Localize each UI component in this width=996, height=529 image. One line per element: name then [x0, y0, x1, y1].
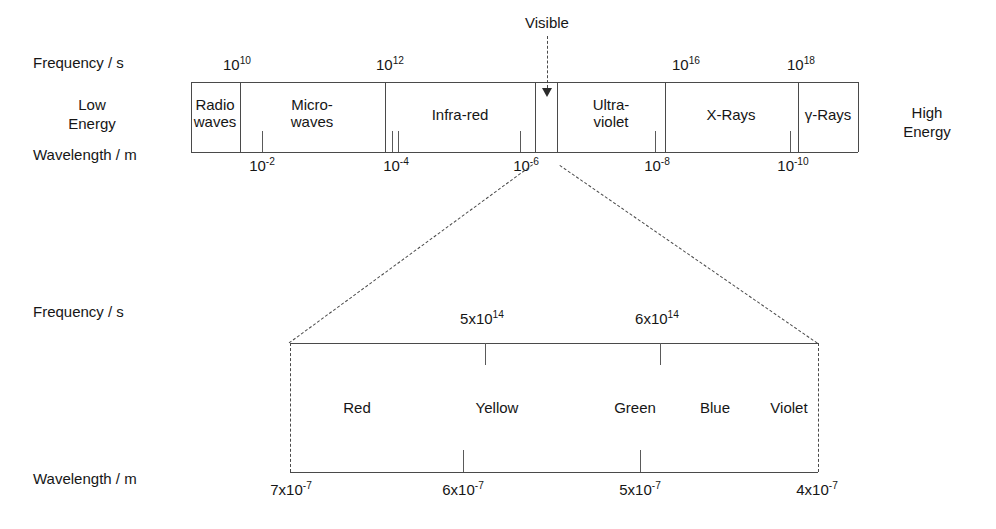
- visible-wavelength-tick-2-exp: -7: [652, 480, 661, 491]
- band-label-infra-red-line1: Infra-red: [432, 106, 489, 123]
- band-label-ultraviolet-line2: violet: [593, 113, 630, 130]
- band-label-gammarays: γ-Rays: [805, 106, 852, 123]
- visible-wavelength-tick-3: 4x10-7: [796, 481, 838, 498]
- top-frequency-tick-2-exp: 16: [689, 55, 700, 66]
- top-wavelength-tick-2: 10-6: [513, 157, 539, 174]
- divider-microwaves-infrared: [385, 82, 386, 152]
- top-wavelength-tick-3-base: 10: [644, 157, 661, 174]
- visible-panel-top-border: [290, 343, 818, 344]
- top-frequency-tick-3-base: 10: [787, 56, 804, 73]
- top-wavelength-tick-4-exp: -10: [794, 156, 809, 167]
- low-energy-label-line2: Energy: [68, 115, 116, 133]
- visible-callout-arrow-head-icon: [542, 88, 552, 97]
- visible-panel-bottom-border: [290, 472, 818, 473]
- divider-infrared-visible: [535, 82, 536, 152]
- wavelength-axis-label-bottom: Wavelength / m: [33, 470, 137, 487]
- top-wavelength-tick-0-exp: -2: [266, 156, 275, 167]
- top-frequency-tick-1-exp: 12: [393, 55, 404, 66]
- band-label-microwaves-line1: Micro-: [291, 96, 334, 113]
- top-wavelength-tickmark-2: [520, 131, 521, 152]
- band-label-ultraviolet: Ultra- violet: [593, 96, 630, 130]
- top-frequency-tick-2-base: 10: [672, 56, 689, 73]
- visible-wavelength-tick-0: 7x10-7: [270, 481, 312, 498]
- band-label-radio-waves-line2: waves: [194, 113, 237, 130]
- top-frequency-tick-3: 1018: [787, 56, 815, 73]
- colour-label-green: Green: [614, 399, 656, 416]
- high-energy-label-line2: Energy: [903, 123, 951, 141]
- visible-wavelength-tick-1-base: 6x10: [442, 481, 475, 498]
- visible-wavelength-tick-1: 6x10-7: [442, 481, 484, 498]
- visible-frequency-tick-1-base: 6x10: [635, 310, 668, 327]
- visible-wavelength-tick-2-base: 5x10: [619, 481, 652, 498]
- band-label-microwaves: Micro- waves: [291, 96, 334, 130]
- visible-panel-left-border: [290, 343, 291, 472]
- visible-callout-arrow-stem: [547, 36, 548, 88]
- top-wavelength-tick-3: 10-8: [644, 157, 670, 174]
- top-frequency-tick-2: 1016: [672, 56, 700, 73]
- visible-wavelength-tick-3-exp: -7: [829, 480, 838, 491]
- colour-label-violet: Violet: [770, 399, 807, 416]
- top-wavelength-tickmark-1a: [392, 131, 393, 152]
- top-wavelength-tick-1: 10-4: [383, 157, 409, 174]
- top-frequency-tick-0: 1010: [223, 56, 251, 73]
- band-label-radio-waves-line1: Radio: [194, 96, 237, 113]
- top-spectrum-bar-left-border: [191, 82, 192, 152]
- wavelength-axis-label-top: Wavelength / m: [33, 146, 137, 163]
- visible-wavelength-tickmark-1: [463, 450, 464, 472]
- colour-label-yellow: Yellow: [476, 399, 519, 416]
- band-label-ultraviolet-line1: Ultra-: [593, 96, 630, 113]
- divider-radio-microwaves: [240, 82, 241, 152]
- visible-frequency-tick-1-exp: 14: [668, 309, 679, 320]
- low-energy-label-line1: Low: [78, 96, 106, 114]
- visible-frequency-tick-0-exp: 14: [493, 309, 504, 320]
- visible-frequency-tickmark-0: [485, 343, 486, 365]
- top-wavelength-tick-4-base: 10: [777, 157, 794, 174]
- frequency-axis-label-bottom: Frequency / s: [33, 303, 124, 320]
- visible-panel-right-border: [818, 343, 819, 472]
- visible-wavelength-tick-0-base: 7x10: [270, 481, 303, 498]
- top-wavelength-tick-0: 10-2: [249, 157, 275, 174]
- visible-wavelength-tickmark-2: [640, 450, 641, 472]
- band-label-radio-waves: Radio waves: [194, 96, 237, 130]
- top-wavelength-tick-1-base: 10: [383, 157, 400, 174]
- visible-frequency-tick-0: 5x1014: [460, 310, 504, 327]
- top-frequency-tick-1: 1012: [376, 56, 404, 73]
- frequency-axis-label-top: Frequency / s: [33, 54, 124, 71]
- top-wavelength-tickmark-4: [790, 131, 791, 152]
- band-label-infra-red: Infra-red: [432, 106, 489, 123]
- expansion-line-right: [559, 165, 817, 344]
- top-frequency-tick-0-exp: 10: [240, 55, 251, 66]
- top-wavelength-tickmark-3: [655, 131, 656, 152]
- visible-wavelength-tick-3-base: 4x10: [796, 481, 829, 498]
- top-wavelength-tick-0-base: 10: [249, 157, 266, 174]
- top-wavelength-tickmark-0: [262, 131, 263, 152]
- band-label-xrays-line1: X-Rays: [706, 106, 755, 123]
- visible-frequency-tick-0-base: 5x10: [460, 310, 493, 327]
- spectrum-diagram: Frequency / s Wavelength / m Low Energy …: [0, 0, 996, 529]
- top-wavelength-tick-4: 10-10: [777, 157, 808, 174]
- top-spectrum-bar-right-border: [858, 82, 859, 152]
- top-frequency-tick-1-base: 10: [376, 56, 393, 73]
- visible-wavelength-tick-2: 5x10-7: [619, 481, 661, 498]
- visible-frequency-tickmark-1: [660, 343, 661, 365]
- top-frequency-tick-0-base: 10: [223, 56, 240, 73]
- visible-frequency-tick-1: 6x1014: [635, 310, 679, 327]
- band-label-gammarays-line1: γ-Rays: [805, 106, 852, 123]
- divider-xrays-gammarays: [798, 82, 799, 152]
- band-label-xrays: X-Rays: [706, 106, 755, 123]
- visible-callout-label: Visible: [525, 14, 569, 31]
- high-energy-label-line1: High: [912, 104, 943, 122]
- top-wavelength-tick-1-exp: -4: [400, 156, 409, 167]
- visible-wavelength-tick-1-exp: -7: [475, 480, 484, 491]
- top-frequency-tick-3-exp: 18: [804, 55, 815, 66]
- top-wavelength-tickmark-1b: [398, 131, 399, 152]
- divider-visible-ultraviolet: [557, 82, 558, 152]
- colour-label-blue: Blue: [700, 399, 730, 416]
- band-label-microwaves-line2: waves: [291, 113, 334, 130]
- top-spectrum-bar-bottom-border: [191, 152, 858, 153]
- divider-ultraviolet-xrays: [665, 82, 666, 152]
- top-spectrum-bar-top-border: [191, 82, 858, 83]
- top-wavelength-tick-3-exp: -8: [661, 156, 670, 167]
- colour-label-red: Red: [343, 399, 371, 416]
- visible-wavelength-tick-0-exp: -7: [303, 480, 312, 491]
